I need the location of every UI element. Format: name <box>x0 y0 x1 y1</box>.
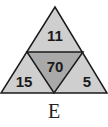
right-number: 5 <box>83 73 91 90</box>
option-label: E <box>0 100 108 123</box>
top-number: 11 <box>47 27 63 44</box>
left-number: 15 <box>16 73 33 90</box>
center-number: 70 <box>47 58 64 75</box>
